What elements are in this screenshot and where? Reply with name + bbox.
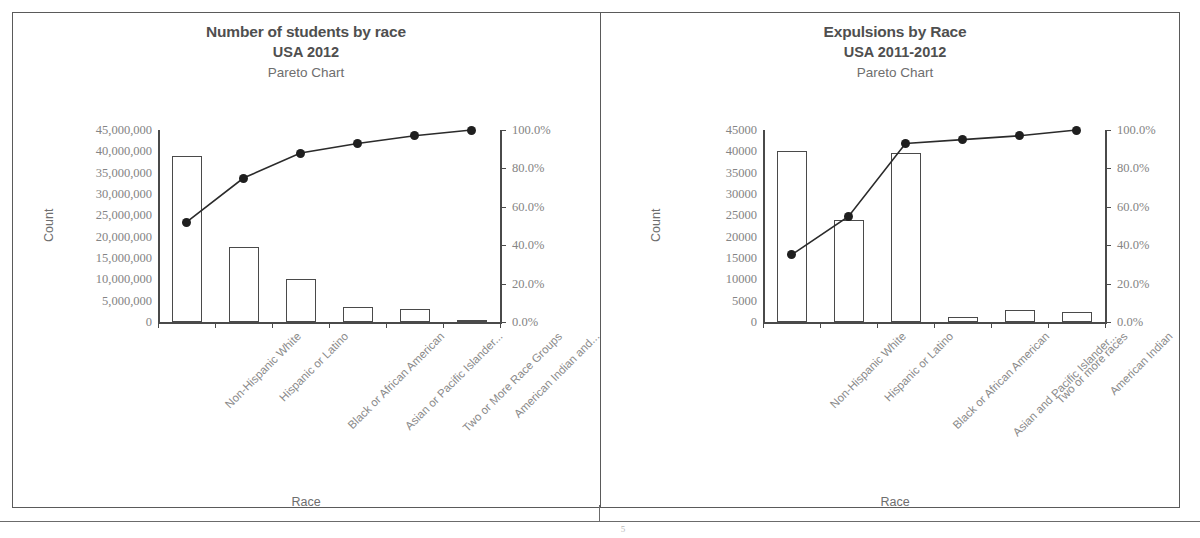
x-tick-mark bbox=[877, 322, 878, 328]
y2-tick-label: 100.0% bbox=[1117, 124, 1156, 136]
y-tick-label: 40,000,000 bbox=[96, 145, 152, 157]
y-axis-title: Count bbox=[42, 209, 56, 242]
data-point-marker bbox=[1072, 126, 1081, 135]
y2-tick-label: 0.0% bbox=[512, 316, 538, 328]
y2-tick-label: 40.0% bbox=[512, 239, 544, 251]
x-tick-label: Asian or Pacific Islander... bbox=[402, 330, 504, 432]
chart-panel-students: Number of students by race USA 2012 Pare… bbox=[12, 12, 600, 508]
y2-axis-line bbox=[500, 130, 502, 322]
y2-tick-label: 60.0% bbox=[512, 201, 544, 213]
document-page: 5 Number of students by race USA 2012 Pa… bbox=[0, 0, 1200, 538]
y-tick-label: 40000 bbox=[726, 145, 757, 157]
y-tick-label: 0 bbox=[751, 316, 757, 328]
data-point-marker bbox=[901, 139, 910, 148]
y-tick-label: 15000 bbox=[726, 252, 757, 264]
y-axis-title: Count bbox=[649, 209, 663, 242]
y2-tick-mark bbox=[1105, 207, 1111, 208]
x-axis-title: Race bbox=[601, 495, 1189, 509]
y2-tick-mark bbox=[500, 284, 506, 285]
y-tick-label: 0 bbox=[146, 316, 152, 328]
x-tick-mark bbox=[991, 322, 992, 328]
y-tick-label: 30,000,000 bbox=[96, 188, 152, 200]
y-tick-label: 35000 bbox=[726, 167, 757, 179]
y-tick-label: 10000 bbox=[726, 273, 757, 285]
chart-title-block-right: Expulsions by Race USA 2011-2012 Pareto … bbox=[601, 22, 1189, 83]
x-axis-title: Race bbox=[12, 495, 600, 509]
chart-title-line2: USA 2012 bbox=[12, 42, 600, 62]
plot-area-students bbox=[158, 130, 500, 322]
x-tick-mark bbox=[386, 322, 387, 328]
data-point-marker bbox=[296, 149, 305, 158]
x-tick-label: Black or African American bbox=[345, 330, 446, 431]
x-axis-line bbox=[158, 322, 502, 324]
y-tick-label: 45,000,000 bbox=[96, 124, 152, 136]
plot-area-expulsions bbox=[763, 130, 1105, 322]
y-tick-label: 5000 bbox=[732, 295, 757, 307]
y2-tick-label: 80.0% bbox=[512, 162, 544, 174]
y-tick-label: 25,000,000 bbox=[96, 209, 152, 221]
x-tick-mark bbox=[1048, 322, 1049, 328]
cumulative-line bbox=[763, 130, 1105, 322]
y2-axis-line bbox=[1105, 130, 1107, 322]
x-tick-mark bbox=[272, 322, 273, 328]
y-tick-label: 25000 bbox=[726, 209, 757, 221]
x-tick-mark bbox=[158, 322, 159, 328]
x-tick-mark bbox=[500, 322, 501, 328]
y2-tick-mark bbox=[1105, 168, 1111, 169]
y-tick-label: 15,000,000 bbox=[96, 252, 152, 264]
x-tick-mark bbox=[763, 322, 764, 328]
data-point-marker bbox=[844, 212, 853, 221]
data-point-marker bbox=[353, 139, 362, 148]
y2-tick-mark bbox=[500, 130, 506, 131]
y2-tick-label: 80.0% bbox=[1117, 162, 1149, 174]
data-point-marker bbox=[239, 174, 248, 183]
chart-title-block-left: Number of students by race USA 2012 Pare… bbox=[12, 22, 600, 83]
chart-subtitle: Pareto Chart bbox=[12, 62, 600, 83]
y2-tick-label: 20.0% bbox=[1117, 278, 1149, 290]
y-tick-label: 30000 bbox=[726, 188, 757, 200]
y-tick-label: 20000 bbox=[726, 231, 757, 243]
y2-tick-mark bbox=[1105, 130, 1111, 131]
x-tick-mark bbox=[329, 322, 330, 328]
footer-rule bbox=[0, 521, 1200, 522]
x-tick-mark bbox=[1105, 322, 1106, 328]
y2-tick-label: 100.0% bbox=[512, 124, 551, 136]
data-point-marker bbox=[182, 218, 191, 227]
y-tick-label: 45000 bbox=[726, 124, 757, 136]
x-tick-mark bbox=[443, 322, 444, 328]
x-axis-line bbox=[763, 322, 1107, 324]
y2-tick-label: 60.0% bbox=[1117, 201, 1149, 213]
y2-tick-mark bbox=[500, 245, 506, 246]
page-number: 5 bbox=[612, 524, 634, 534]
y-tick-label: 10,000,000 bbox=[96, 273, 152, 285]
y2-tick-label: 20.0% bbox=[512, 278, 544, 290]
x-tick-mark bbox=[934, 322, 935, 328]
y2-tick-mark bbox=[500, 168, 506, 169]
chart-title-line2: USA 2011-2012 bbox=[601, 42, 1189, 62]
y2-tick-label: 0.0% bbox=[1117, 316, 1143, 328]
y2-tick-mark bbox=[500, 207, 506, 208]
x-tick-mark bbox=[820, 322, 821, 328]
x-tick-mark bbox=[215, 322, 216, 328]
data-point-marker bbox=[467, 126, 476, 135]
chart-title-line1: Number of students by race bbox=[12, 22, 600, 42]
chart-title-line1: Expulsions by Race bbox=[601, 22, 1189, 42]
y-tick-label: 5,000,000 bbox=[102, 295, 152, 307]
y-tick-label: 35,000,000 bbox=[96, 167, 152, 179]
y2-tick-mark bbox=[1105, 245, 1111, 246]
chart-panel-expulsions: Expulsions by Race USA 2011-2012 Pareto … bbox=[601, 12, 1189, 508]
y-tick-label: 20,000,000 bbox=[96, 231, 152, 243]
y2-tick-label: 40.0% bbox=[1117, 239, 1149, 251]
y2-tick-mark bbox=[1105, 284, 1111, 285]
cumulative-line bbox=[158, 130, 500, 322]
chart-subtitle: Pareto Chart bbox=[601, 62, 1189, 83]
